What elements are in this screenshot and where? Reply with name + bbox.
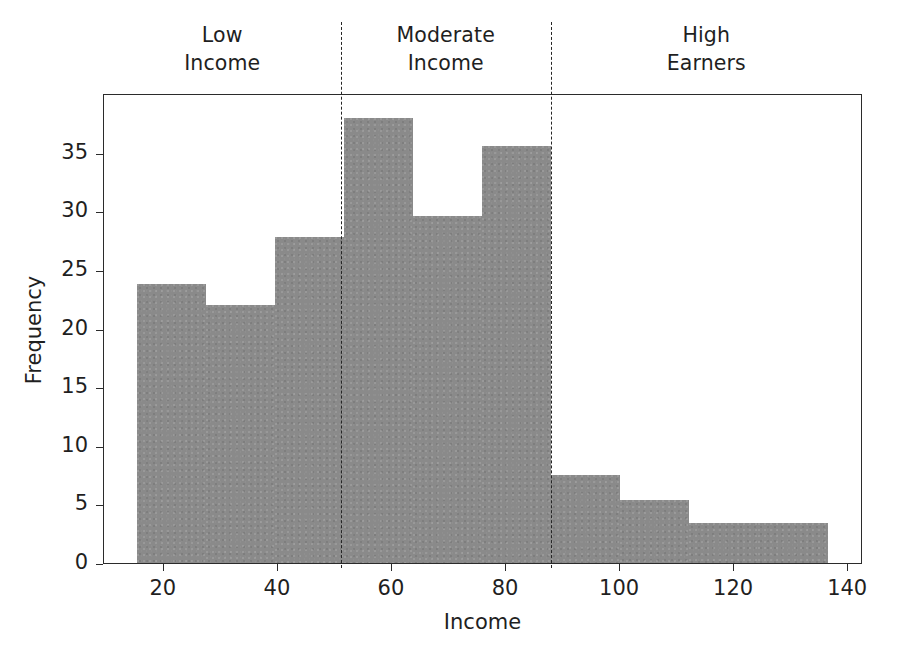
y-tick-mark	[96, 154, 103, 155]
y-tick-label: 0	[30, 550, 88, 574]
y-tick-mark	[96, 388, 103, 389]
y-tick-mark	[96, 212, 103, 213]
y-tick-mark	[96, 330, 103, 331]
y-tick-label: 5	[30, 491, 88, 515]
x-tick-mark	[163, 564, 164, 571]
region-label: Low Income	[112, 22, 332, 77]
y-tick-label: 35	[30, 140, 88, 164]
x-tick-mark	[619, 564, 620, 571]
y-tick-label: 10	[30, 433, 88, 457]
region-label: High Earners	[596, 22, 816, 77]
histogram-bar	[344, 118, 413, 563]
x-tick-mark	[391, 564, 392, 571]
x-tick-label: 100	[584, 576, 654, 600]
histogram-bar	[137, 284, 206, 563]
histogram-bar	[206, 305, 275, 563]
x-axis-label: Income	[103, 610, 862, 634]
y-tick-mark	[96, 447, 103, 448]
region-divider-line	[551, 22, 552, 568]
x-tick-mark	[847, 564, 848, 571]
x-tick-label: 20	[128, 576, 198, 600]
x-tick-mark	[277, 564, 278, 571]
x-tick-mark	[733, 564, 734, 571]
y-tick-label: 20	[30, 316, 88, 340]
y-tick-label: 25	[30, 257, 88, 281]
x-tick-mark	[505, 564, 506, 571]
y-tick-label: 15	[30, 374, 88, 398]
x-tick-label: 40	[242, 576, 312, 600]
region-divider-line	[341, 22, 342, 568]
x-tick-label: 120	[698, 576, 768, 600]
x-tick-label: 140	[812, 576, 882, 600]
histogram-bars	[104, 95, 861, 563]
y-tick-label: 30	[30, 198, 88, 222]
histogram-figure: Frequency 05101520253035 204060801001201…	[0, 0, 897, 669]
histogram-bar	[689, 523, 758, 563]
histogram-bar	[551, 475, 620, 563]
histogram-bar	[482, 146, 551, 563]
x-tick-label: 60	[356, 576, 426, 600]
y-tick-mark	[96, 564, 103, 565]
x-tick-label: 80	[470, 576, 540, 600]
plot-area	[103, 94, 862, 564]
y-tick-mark	[96, 505, 103, 506]
histogram-bar	[413, 216, 482, 563]
histogram-bar	[758, 523, 829, 563]
y-tick-mark	[96, 271, 103, 272]
histogram-bar	[275, 237, 344, 563]
region-label: Moderate Income	[336, 22, 556, 77]
histogram-bar	[620, 500, 689, 563]
